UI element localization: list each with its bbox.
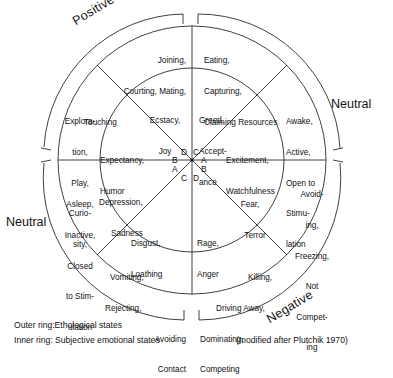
inner-sector-greed: Greed, Accept- ance — [199, 96, 227, 208]
center-letter-c-lower-left: C — [181, 173, 187, 183]
center-letter-d-upper-left: D — [181, 147, 187, 157]
inner-sector-rage: Rage, Anger — [197, 219, 219, 301]
legend-inner-ring: Inner ring: Subjective emotional states — [14, 335, 160, 345]
center-letter-a-left-lower: A — [172, 164, 178, 174]
center-letter-b-right-lower: B — [201, 164, 207, 174]
axis-label-neutral-left: Neutral — [6, 215, 46, 229]
center-letter-c-upper-right: C — [193, 147, 199, 157]
inner-sector-ecstacy: Ecstacy, Joy — [143, 96, 187, 178]
legend-outer-ring: Outer ring:Ethological states — [14, 320, 122, 330]
inner-sector-expectancy: Expectancy, Humor — [100, 136, 144, 218]
attribution-note: (modified after Plutchik 1970) — [236, 335, 348, 345]
center-letter-d-lower-right: D — [193, 173, 199, 183]
center-dot — [190, 158, 193, 161]
axis-label-neutral-right: Neutral — [331, 97, 371, 111]
inner-sector-fear: Fear, Terror — [229, 180, 271, 262]
